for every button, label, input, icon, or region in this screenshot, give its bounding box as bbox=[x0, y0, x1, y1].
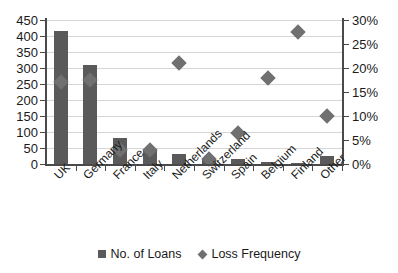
diamond-marker-icon bbox=[198, 249, 208, 259]
left-axis-tick bbox=[40, 100, 45, 101]
left-axis-tick bbox=[40, 52, 45, 53]
left-axis-tick-label: 250 bbox=[16, 78, 38, 91]
left-axis-tick-label: 100 bbox=[16, 126, 38, 139]
bottom-axis-tick bbox=[76, 166, 77, 171]
left-axis-tick-label: 450 bbox=[16, 14, 38, 27]
left-axis-tick bbox=[40, 164, 45, 165]
right-axis-tick bbox=[344, 116, 349, 117]
bar-uk bbox=[54, 31, 68, 164]
left-axis-tick bbox=[40, 68, 45, 69]
right-axis-tick-label: 5% bbox=[352, 134, 371, 147]
right-axis-tick-label: 20% bbox=[352, 62, 378, 75]
left-axis-tick-label: 0 bbox=[31, 158, 38, 171]
left-axis-tick-label: 350 bbox=[16, 46, 38, 59]
left-axis-tick-label: 300 bbox=[16, 62, 38, 75]
left-axis-tick-label: 200 bbox=[16, 94, 38, 107]
left-axis-tick bbox=[40, 36, 45, 37]
gridline bbox=[46, 52, 342, 53]
right-axis-tick bbox=[344, 140, 349, 141]
left-axis-tick bbox=[40, 132, 45, 133]
legend-item-loss-frequency: Loss Frequency bbox=[199, 247, 300, 261]
legend-label-loss-frequency: Loss Frequency bbox=[211, 247, 300, 261]
left-axis-tick-label: 50 bbox=[24, 142, 38, 155]
right-axis-tick-label: 15% bbox=[352, 86, 378, 99]
marker-other bbox=[319, 108, 335, 124]
right-axis-tick-label: 0% bbox=[352, 158, 371, 171]
right-axis-tick-label: 25% bbox=[352, 38, 378, 51]
chart-container: 050100150200250300350400450 0%5%10%15%20… bbox=[0, 0, 398, 273]
right-axis-tick-label: 10% bbox=[352, 110, 378, 123]
right-axis-tick bbox=[344, 68, 349, 69]
left-axis-tick bbox=[40, 116, 45, 117]
marker-finland bbox=[290, 24, 306, 40]
legend-label-no-of-loans: No. of Loans bbox=[111, 247, 182, 261]
square-marker-icon bbox=[98, 250, 106, 258]
chart-legend: No. of Loans Loss Frequency bbox=[0, 247, 398, 261]
right-axis-tick bbox=[344, 20, 349, 21]
left-axis-tick bbox=[40, 20, 45, 21]
left-axis-line bbox=[45, 18, 47, 166]
right-axis-tick bbox=[344, 44, 349, 45]
right-axis-tick bbox=[344, 92, 349, 93]
right-axis-tick-label: 30% bbox=[352, 14, 378, 27]
left-axis-tick bbox=[40, 148, 45, 149]
left-axis-tick-label: 400 bbox=[16, 30, 38, 43]
plot-area bbox=[46, 20, 342, 164]
legend-item-no-of-loans: No. of Loans bbox=[98, 247, 182, 261]
left-axis-tick bbox=[40, 84, 45, 85]
left-axis-tick-label: 150 bbox=[16, 110, 38, 123]
gridline bbox=[46, 20, 342, 21]
